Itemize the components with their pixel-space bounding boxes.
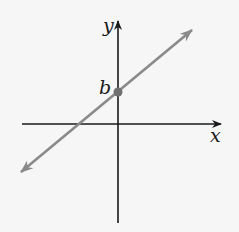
graph-line <box>21 30 192 172</box>
coordinate-plane: y x b <box>0 0 239 232</box>
y-intercept-point <box>114 88 123 97</box>
x-axis-label: x <box>210 124 221 146</box>
intercept-label: b <box>99 76 111 98</box>
y-axis-label: y <box>102 14 114 36</box>
